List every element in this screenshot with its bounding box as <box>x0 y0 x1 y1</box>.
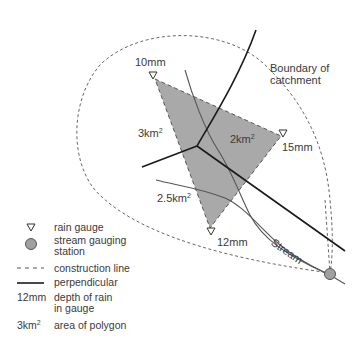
stream-gauging-station-icon <box>325 269 336 280</box>
area-label-2km2: 2km2 <box>230 133 255 145</box>
gauge-label-15mm: 15mm <box>282 141 313 153</box>
gauge-label-10mm: 10mm <box>135 56 166 68</box>
area-label-3km2: 3km2 <box>138 127 163 139</box>
area-label-2-5km2: 2.5km2 <box>157 192 191 204</box>
legend-station-icon <box>26 239 37 250</box>
boundary-label-line2: catchment <box>270 74 321 86</box>
gauge-label-12mm: 12mm <box>217 236 248 248</box>
construction-triangle <box>155 79 281 228</box>
legend-rain-gauge-icon <box>27 224 35 231</box>
boundary-label-line1: Boundary of <box>270 62 329 74</box>
rain-gauge-10mm-icon <box>149 72 157 79</box>
rain-gauge-12mm-icon <box>207 228 215 235</box>
